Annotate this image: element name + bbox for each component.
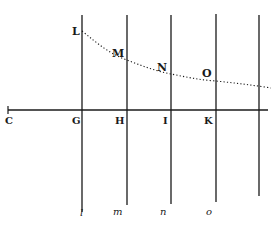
label-O: O (202, 67, 212, 80)
label-M: M (112, 47, 124, 60)
dotted-curve-lmno (82, 31, 271, 88)
label-m: m (113, 206, 122, 217)
label-K: K (204, 115, 213, 126)
geometric-diagram: L M N O C G H I K l m n o (0, 0, 276, 234)
label-l: l (80, 207, 83, 218)
label-N: N (157, 61, 167, 74)
label-G: G (72, 115, 81, 126)
label-I: I (163, 115, 168, 126)
label-C: C (5, 115, 13, 126)
label-o: o (206, 206, 212, 217)
label-L: L (72, 25, 80, 38)
label-H: H (115, 115, 124, 126)
label-n: n (160, 206, 166, 217)
